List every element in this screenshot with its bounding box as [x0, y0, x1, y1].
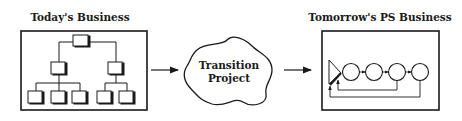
process-flow [329, 60, 429, 97]
org-box-leaf-4 [97, 91, 113, 104]
org-box-root [73, 35, 90, 47]
tomorrows-business-title: Tomorrow's PS Business [308, 11, 451, 23]
org-box-mid-right [108, 62, 124, 75]
process-circle-2 [366, 64, 383, 81]
org-box-leaf-5 [119, 91, 135, 104]
transition-project-cloud: Transition Project [184, 37, 272, 105]
org-box-leaf-1 [28, 91, 44, 104]
org-box-leaf-2 [51, 91, 67, 104]
tomorrows-business-panel: Tomorrow's PS Business [308, 11, 451, 110]
org-box-mid-left [51, 62, 67, 75]
transition-diagram: Today's Business [0, 0, 462, 121]
todays-business-title: Today's Business [30, 11, 129, 23]
process-circle-1 [343, 64, 360, 81]
cloud-line-1: Transition [199, 59, 260, 71]
org-chart [28, 35, 135, 104]
todays-business-panel: Today's Business [21, 11, 147, 110]
feedback-loop-inner [338, 80, 397, 90]
cloud-line-2: Project [208, 72, 250, 84]
process-circle-3 [389, 64, 406, 81]
org-box-leaf-3 [72, 91, 88, 104]
feedback-loop-outer [330, 81, 420, 98]
process-circle-4 [412, 64, 429, 81]
